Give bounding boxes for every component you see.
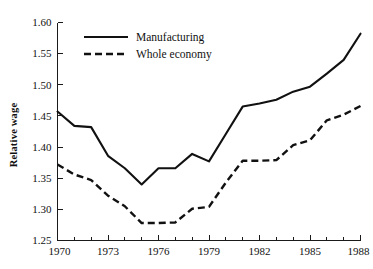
x-axis: 1970197319761979198219851988 — [49, 235, 371, 257]
x-tick-label: 1982 — [249, 245, 271, 257]
legend-label-whole-economy: Whole economy — [136, 48, 212, 61]
x-tick-label: 1988 — [348, 245, 371, 257]
y-tick-label: 1.40 — [32, 141, 52, 153]
series-lines — [58, 34, 361, 223]
y-tick-label: 1.60 — [32, 16, 52, 28]
x-tick-label: 1970 — [49, 245, 72, 257]
chart-figure: 1.251.301.351.401.451.501.551.60 1970197… — [0, 0, 373, 269]
x-tick-label: 1976 — [148, 245, 171, 257]
y-tick-label: 1.55 — [32, 47, 52, 59]
x-tick-label: 1985 — [299, 245, 322, 257]
x-tick-label: 1973 — [97, 245, 120, 257]
series-line-whole-economy — [58, 106, 361, 223]
y-tick-label: 1.30 — [32, 203, 52, 215]
x-tick-label: 1979 — [198, 245, 221, 257]
line-chart: 1.251.301.351.401.451.501.551.60 1970197… — [0, 0, 373, 269]
y-tick-label: 1.45 — [32, 110, 52, 122]
y-tick-label: 1.50 — [32, 79, 52, 91]
y-axis: 1.251.301.351.401.451.501.551.60 — [32, 16, 62, 246]
y-axis-title: Relative wage — [8, 103, 19, 168]
legend-label-manufacturing: Manufacturing — [136, 31, 205, 44]
y-tick-label: 1.35 — [32, 172, 52, 184]
chart-legend: ManufacturingWhole economy — [84, 31, 212, 61]
